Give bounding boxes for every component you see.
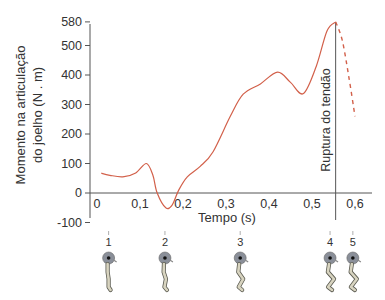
phase-figures: 12345 [103, 231, 361, 290]
phase-figure-3: 3 [234, 231, 248, 290]
moment-curve [101, 22, 335, 209]
x-tick-label: 0,2 [174, 197, 191, 211]
x-tick-label: 0,1 [131, 197, 148, 211]
y-axis-title-line-1: Momento na articulação [13, 46, 28, 185]
phase-label: 1 [106, 236, 112, 248]
y-axis-title: Momento na articulação do joelho (N . m) [13, 46, 45, 185]
y-tick-label: 200 [61, 127, 82, 141]
phase-figure-5: 5 [347, 231, 361, 290]
phase-figure-1: 1 [103, 231, 117, 290]
phase-figure-4: 4 [324, 231, 338, 290]
x-tick-label: 0 [94, 197, 101, 211]
x-axis: 00,10,20,30,40,50,6 [90, 193, 372, 211]
moment-curve-dashed [336, 22, 355, 116]
y-tick-label: 100 [61, 157, 82, 171]
y-axis: -1000100200300400500580 [57, 15, 90, 230]
rupture-label: Ruptura do tendão [319, 68, 333, 172]
x-tick-label: 0,4 [260, 197, 277, 211]
y-axis-title-line-2: do joelho (N . m) [30, 67, 45, 163]
knee-moment-chart: Momento na articulação do joelho (N . m)… [0, 0, 385, 300]
y-tick-label: 400 [61, 68, 82, 82]
y-tick-label: 500 [61, 39, 82, 53]
x-tick-label: 0,5 [303, 197, 320, 211]
phase-label: 5 [350, 236, 356, 248]
y-tick-label: -100 [57, 216, 82, 230]
phase-label: 3 [237, 236, 243, 248]
x-tick-label: 0,6 [346, 197, 363, 211]
phase-label: 2 [162, 236, 168, 248]
y-tick-label: 580 [61, 15, 82, 29]
y-tick-label: 0 [75, 186, 82, 200]
phase-figure-2: 2 [159, 231, 173, 290]
y-tick-label: 300 [61, 98, 82, 112]
x-axis-title: Tempo (s) [198, 210, 256, 225]
x-tick-label: 0,3 [217, 197, 234, 211]
phase-label: 4 [327, 236, 333, 248]
